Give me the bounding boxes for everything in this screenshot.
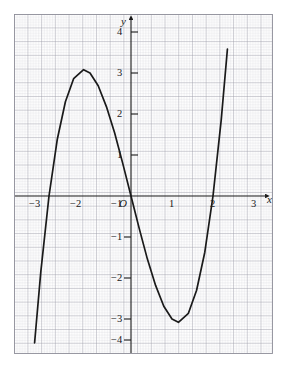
y-tick-label--1: −1 xyxy=(111,232,122,243)
origin-label: O xyxy=(119,198,127,209)
y-tick-label--3: −3 xyxy=(111,314,122,325)
y-tick-label-1: 1 xyxy=(117,150,122,161)
x-tick-label-2: 2 xyxy=(210,199,215,210)
coordinate-plot xyxy=(0,0,287,365)
x-tick-label--2: −2 xyxy=(70,199,81,210)
y-tick-label-4: 4 xyxy=(117,27,122,38)
x-axis-label: x xyxy=(267,194,272,205)
y-tick-label-3: 3 xyxy=(117,68,122,79)
y-tick-label-2: 2 xyxy=(117,109,122,120)
y-tick-label--2: −2 xyxy=(111,273,122,284)
x-tick-label-1: 1 xyxy=(169,199,174,210)
x-tick-label-3: 3 xyxy=(251,199,256,210)
y-axis-label: y xyxy=(121,16,126,27)
x-tick-label--3: −3 xyxy=(29,199,40,210)
graph-figure: −3 −2 −1 1 2 3 4 3 2 1 −1 −2 −3 −4 O x y xyxy=(0,0,287,365)
grid-paper xyxy=(15,15,273,354)
y-tick-label--4: −4 xyxy=(111,335,122,346)
